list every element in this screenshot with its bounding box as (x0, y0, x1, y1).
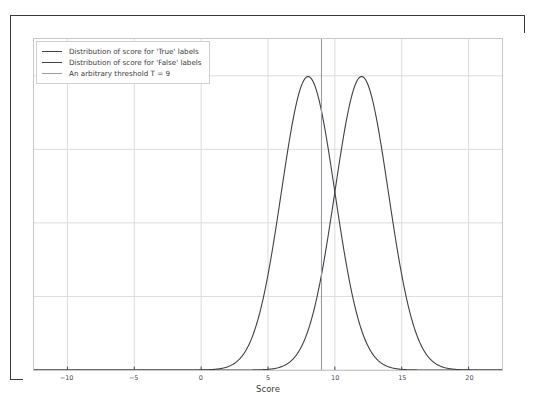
x-tick-label-6: 20 (465, 374, 473, 382)
x-tick-label-2: 0 (199, 374, 203, 382)
legend-item-1: Distribution of score for 'False' labels (42, 57, 202, 68)
x-tick-label-4: 10 (331, 374, 339, 382)
legend-item-0: Distribution of score for 'True' labels (42, 46, 202, 57)
line-swatch-icon (42, 73, 62, 74)
gridlines-group (34, 39, 502, 370)
line-swatch-icon (42, 62, 62, 63)
line-swatch-icon (42, 51, 62, 52)
legend-item-label: An arbitrary threshold T = 9 (69, 69, 170, 78)
plot-canvas (34, 39, 502, 370)
matplotlib-figure: −10−505101520 Score Distribution of scor… (23, 33, 534, 393)
x-tick-label-5: 15 (398, 374, 406, 382)
x-tick-label-3: 5 (266, 374, 270, 382)
plot-axes (33, 38, 503, 371)
chart-legend: Distribution of score for 'True' labelsD… (36, 41, 210, 84)
page-frame: −10−505101520 Score Distribution of scor… (10, 15, 525, 380)
x-tick-label-1: −5 (129, 374, 139, 382)
legend-item-label: Distribution of score for 'False' labels (69, 58, 202, 67)
x-axis-title: Score (33, 384, 503, 393)
x-tick-label-0: −10 (60, 374, 74, 382)
legend-item-2: An arbitrary threshold T = 9 (42, 68, 202, 79)
legend-item-label: Distribution of score for 'True' labels (69, 47, 199, 56)
clipped-page-text (0, 0, 534, 9)
